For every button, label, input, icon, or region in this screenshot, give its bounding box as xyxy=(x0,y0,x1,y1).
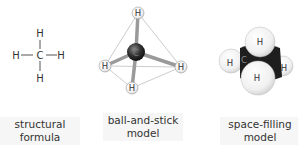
h-label: H xyxy=(178,62,184,72)
structural-formula-label: structural formula xyxy=(0,117,80,145)
h-label: H xyxy=(102,61,108,71)
carbon-label: C xyxy=(133,48,139,58)
label-line: ball-and-stick xyxy=(103,114,183,127)
label-line: space-filling xyxy=(220,118,298,131)
h-label: H xyxy=(281,63,287,73)
label-line: model xyxy=(220,131,298,144)
h-label: H xyxy=(257,37,263,47)
c-label: C xyxy=(241,55,247,65)
ball-and-stick-model: C H H H H xyxy=(99,7,187,94)
h-label: H xyxy=(254,73,260,83)
h-label: H xyxy=(129,83,135,93)
space-filling-model: H H H H C xyxy=(219,27,293,95)
h-label: H xyxy=(135,8,141,18)
label-line: formula xyxy=(0,131,80,144)
label-line: structural xyxy=(0,118,80,131)
h-label: H xyxy=(227,58,233,68)
structural-formula: H H C H H xyxy=(12,28,65,84)
space-filling-label: space-filling model xyxy=(220,117,298,145)
label-line: model xyxy=(103,127,183,140)
ball-and-stick-label: ball-and-stick model xyxy=(103,113,183,141)
atom-h-right: H xyxy=(57,50,65,61)
atom-h-top: H xyxy=(36,28,44,39)
atom-c: C xyxy=(37,50,44,61)
atom-h-left: H xyxy=(12,50,20,61)
atom-h-bottom: H xyxy=(36,73,44,84)
